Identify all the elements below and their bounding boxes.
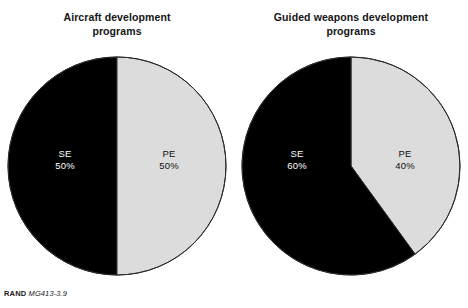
pie-chart-figure: Aircraft development programs SE 50% PE … (0, 0, 468, 308)
chart-panel-guided-weapons: Guided weapons development programs SE 6… (234, 0, 468, 290)
pie-guided-weapons: SE 60% PE 40% (240, 55, 462, 277)
figure-number-label: MG413-3.9 (29, 289, 67, 298)
pie-guided-weapons-svg (240, 55, 462, 277)
chart-title-aircraft: Aircraft development programs (0, 11, 234, 38)
chart-title-guided-weapons: Guided weapons development programs (234, 11, 468, 38)
chart-panel-aircraft: Aircraft development programs SE 50% PE … (0, 0, 234, 290)
pie-aircraft: SE 50% PE 50% (6, 55, 228, 277)
pie-slice-aircraft-pe (117, 57, 226, 275)
pie-slice-aircraft-se (8, 57, 117, 275)
rand-brand-label: RAND (4, 289, 26, 298)
pie-aircraft-svg (6, 55, 228, 277)
figure-source-note: RAND MG413-3.9 (4, 289, 67, 299)
